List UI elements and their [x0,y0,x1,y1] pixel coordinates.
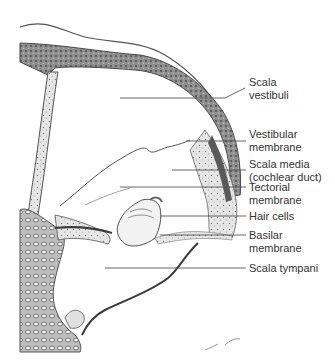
cochlea-diagram: Scala vestibuli Vestibular membrane Scal… [0,0,335,362]
label-scala-tympani: Scala tympani [249,262,318,275]
leader-scala-vestibuli [120,88,245,98]
label-text: membrane [249,194,302,207]
label-text: membrane [249,242,302,255]
label-basilar-membrane: Basilar membrane [249,229,302,255]
label-text: Hair cells [249,210,294,223]
label-text: vestibuli [249,89,289,102]
organ-of-corti [117,199,161,246]
label-text: Scala tympani [249,262,318,275]
label-text: Scala [249,76,289,89]
label-text: Basilar [249,229,302,242]
scala-tympani-wall [82,243,198,335]
left-septum [28,72,58,215]
label-vestibular-membrane: Vestibular membrane [249,128,302,154]
label-text: membrane [249,141,302,154]
label-text: Vestibular [249,128,302,141]
label-text: Tectorial [249,181,302,194]
label-tectorial-membrane: Tectorial membrane [249,181,302,207]
tectorial-sheet [85,188,130,205]
label-scala-vestibuli: Scala vestibuli [249,76,289,102]
label-text: Scala media [249,158,322,171]
reissners-membrane [60,140,190,206]
label-hair-cells: Hair cells [249,210,294,223]
